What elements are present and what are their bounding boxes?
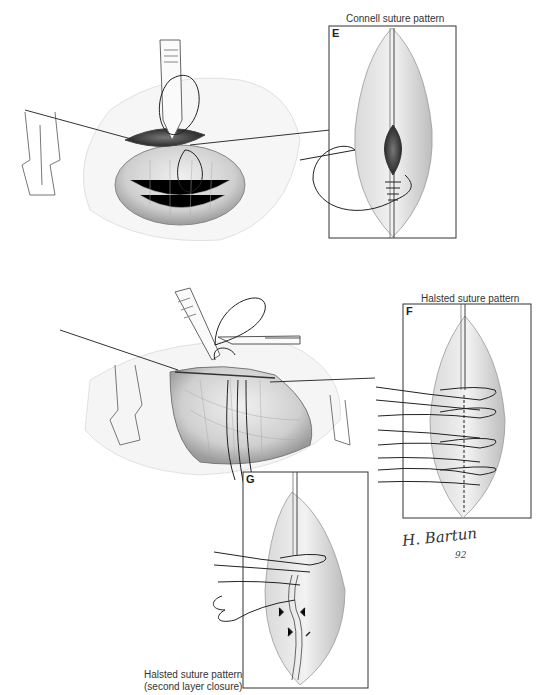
artist-signature-year: 92: [455, 550, 466, 560]
panel-e-letter: E: [332, 27, 339, 39]
panel-g-caption-line2: (second layer closure): [144, 681, 242, 692]
retractor-left-top: [22, 112, 60, 195]
panel-e-drawing: [300, 26, 456, 238]
panel-e-caption: Connell suture pattern: [346, 13, 444, 24]
panel-f-caption: Halsted suture pattern: [421, 293, 519, 304]
top-surgical-illustration: [0, 0, 551, 695]
panel-g-drawing: [213, 472, 368, 688]
panel-f-letter: F: [406, 305, 413, 317]
panel-g-letter: G: [246, 473, 255, 485]
panel-g-caption-line1: Halsted suture pattern: [144, 669, 242, 680]
panel-f-drawing: [376, 304, 531, 518]
